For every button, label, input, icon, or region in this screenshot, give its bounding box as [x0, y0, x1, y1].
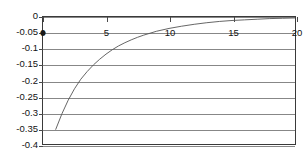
- plot-area: 05101520: [42, 16, 296, 145]
- y-tick-label: -0.2: [0, 76, 38, 86]
- y-tick-mark: [39, 146, 43, 147]
- x-tick-label: 20: [292, 28, 303, 38]
- y-tick-label: -0.05: [0, 27, 38, 37]
- x-tick-mark: [297, 17, 298, 22]
- y-axis-tick-labels: 0-0.05-0.1-0.15-0.2-0.25-0.3-0.35-0.4: [0, 0, 38, 157]
- x-tick-label: 10: [165, 28, 176, 38]
- y-tick-label: -0.4: [0, 140, 38, 150]
- gridline: [43, 146, 295, 147]
- y-tick-label: -0.3: [0, 108, 38, 118]
- y-tick-label: -0.35: [0, 124, 38, 134]
- y-tick-label: 0: [0, 11, 38, 21]
- y-tick-label: -0.25: [0, 92, 38, 102]
- x-tick-label: 5: [104, 28, 109, 38]
- x-tick-label: 15: [228, 28, 239, 38]
- y-tick-label: -0.1: [0, 43, 38, 53]
- chart-figure: 0-0.05-0.1-0.15-0.2-0.25-0.3-0.35-0.4 05…: [0, 0, 306, 157]
- origin-point: [41, 31, 46, 36]
- y-tick-label: -0.15: [0, 59, 38, 69]
